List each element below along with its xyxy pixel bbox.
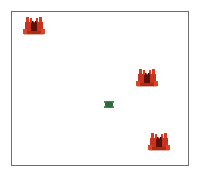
crab-enemy-icon	[148, 133, 170, 152]
crab-enemy-icon	[23, 17, 45, 36]
turtle-player-icon	[104, 100, 114, 109]
crab-enemy-icon	[136, 69, 158, 88]
